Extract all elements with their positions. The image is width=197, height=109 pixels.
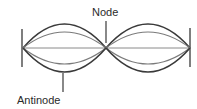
antinode-label: Antinode	[17, 95, 60, 106]
right-lobe-outer-bottom	[106, 48, 190, 72]
left-lobe-outer-bottom	[23, 48, 106, 72]
right-lobe-inner-top	[106, 32, 190, 48]
left-lobe-inner-top	[23, 32, 106, 48]
right-lobe-inner-bottom	[106, 48, 190, 64]
left-lobe-inner-bottom	[23, 48, 106, 64]
left-lobe-outer-top	[23, 24, 106, 48]
node-label: Node	[92, 7, 118, 18]
right-lobe-outer-top	[106, 24, 190, 48]
